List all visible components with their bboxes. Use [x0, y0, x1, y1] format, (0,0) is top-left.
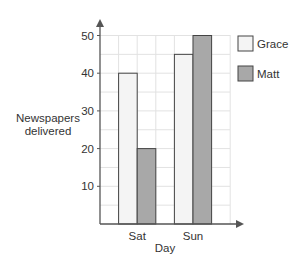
y-tick-label: 10 — [81, 180, 94, 192]
y-tick-label: 50 — [81, 30, 94, 42]
legend-swatch — [238, 36, 253, 51]
x-axis-arrow-icon — [236, 220, 244, 228]
x-axis-label: Day — [155, 242, 176, 254]
legend-swatch — [238, 66, 253, 81]
y-axis-label: Newspapers — [16, 112, 80, 124]
bar-matt-sun — [193, 36, 212, 225]
y-tick-label: 30 — [81, 105, 94, 117]
y-axis-arrow-icon — [96, 19, 104, 27]
legend-label: Grace — [257, 38, 288, 50]
y-axis-label: delivered — [25, 125, 72, 137]
x-tick-label: Sat — [129, 230, 147, 242]
y-tick-label: 40 — [81, 67, 94, 79]
bar-chart: SatSun1020304050NewspapersdeliveredDayGr… — [0, 0, 296, 275]
bar-matt-sat — [137, 149, 156, 224]
x-tick-label: Sun — [183, 230, 203, 242]
bar-grace-sun — [174, 54, 193, 224]
y-tick-label: 20 — [81, 143, 94, 155]
legend-label: Matt — [257, 68, 280, 80]
bar-grace-sat — [119, 73, 138, 224]
